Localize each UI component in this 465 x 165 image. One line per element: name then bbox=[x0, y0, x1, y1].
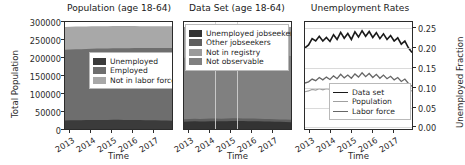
legend-item-labor-force: Labor force bbox=[333, 107, 406, 116]
legend-label: Data set bbox=[352, 88, 384, 97]
xtickmark bbox=[209, 130, 210, 133]
legend-label: Unemployed bbox=[110, 57, 158, 66]
panel-population-plot-area: Unemployed Employed Not in labor force bbox=[64, 21, 173, 130]
gridline bbox=[305, 68, 412, 69]
legend-swatch-icon bbox=[189, 49, 202, 56]
legend-swatch-icon bbox=[189, 30, 202, 37]
figure-canvas: Population (age 18-64) Total Population … bbox=[0, 0, 465, 165]
gridline bbox=[305, 28, 412, 29]
panel-rates-ylabel: Unemployed Fraction bbox=[455, 37, 465, 128]
ytick-005: 0.05 bbox=[418, 104, 436, 114]
ytick-250000: 250000 bbox=[16, 36, 61, 46]
ytickmark bbox=[413, 87, 416, 88]
ytickmark bbox=[413, 126, 416, 127]
legend-line-icon bbox=[333, 92, 348, 93]
panel-population-title: Population (age 18-64) bbox=[60, 3, 178, 13]
xtickmark bbox=[393, 130, 394, 133]
ytick-100000: 100000 bbox=[16, 90, 61, 100]
ytick-000: 0.00 bbox=[418, 123, 436, 133]
legend-label: Population bbox=[352, 97, 392, 106]
legend-item-unemployed-jobseekers: Unemployed jobseekers bbox=[189, 29, 284, 38]
ytickmark bbox=[413, 27, 416, 28]
legend-line-icon bbox=[333, 101, 348, 102]
legend-swatch-icon bbox=[189, 58, 202, 65]
legend-label: Labor force bbox=[352, 107, 395, 116]
ytick-015: 0.15 bbox=[418, 64, 436, 74]
legend-item-other-jobseekers: Other jobseekers bbox=[189, 38, 284, 47]
legend-label: Employed bbox=[110, 66, 148, 75]
ytickmark bbox=[413, 107, 416, 108]
legend-item-not-observable: Not observable bbox=[189, 57, 284, 66]
legend-label: Not observable bbox=[206, 57, 264, 66]
legend-label: Other jobseekers bbox=[206, 38, 271, 47]
xtickmark bbox=[330, 130, 331, 133]
xtickmark bbox=[69, 130, 70, 133]
xtickmark bbox=[188, 130, 189, 133]
xtickmark bbox=[251, 130, 252, 133]
xtickmark bbox=[372, 130, 373, 133]
ytickmark bbox=[413, 47, 416, 48]
xtickmark bbox=[153, 130, 154, 133]
legend-item-unemployed: Unemployed bbox=[93, 57, 173, 66]
panel-rates-title: Unemployment Rates bbox=[299, 3, 421, 13]
legend-swatch-icon bbox=[189, 39, 202, 46]
xtickmark bbox=[272, 130, 273, 133]
ytick-0: 0 bbox=[16, 126, 61, 136]
legend-swatch-icon bbox=[93, 77, 106, 84]
legend-item-not-in-labor-force: Not in labor force bbox=[93, 76, 173, 85]
legend-label: Not in labor force bbox=[110, 76, 173, 85]
panel-dataset-plot-area: Unemployed jobseekers Other jobseekers N… bbox=[183, 21, 292, 130]
legend-swatch-icon bbox=[93, 58, 106, 65]
ytick-50000: 50000 bbox=[16, 108, 61, 118]
xtickmark bbox=[111, 130, 112, 133]
panel-rates-plot-area: Data set Population Labor force bbox=[304, 21, 413, 130]
legend-item-population: Population bbox=[333, 97, 406, 106]
xtickmark bbox=[132, 130, 133, 133]
ytick-010: 0.10 bbox=[418, 84, 436, 94]
panel-rates-legend: Data set Population Labor force bbox=[329, 83, 411, 120]
panel-dataset-xlabel: Time bbox=[183, 151, 292, 161]
panel-dataset-legend: Unemployed jobseekers Other jobseekers N… bbox=[185, 24, 289, 71]
panel-population-legend: Unemployed Employed Not in labor force bbox=[89, 52, 173, 89]
legend-label: Unemployed jobseekers bbox=[206, 29, 292, 38]
ytick-300000: 300000 bbox=[16, 18, 61, 28]
ytick-150000: 150000 bbox=[16, 72, 61, 82]
panel-dataset-title: Data Set (age 18-64) bbox=[178, 3, 296, 13]
xtickmark bbox=[309, 130, 310, 133]
xtickmark bbox=[351, 130, 352, 133]
legend-item-not-in-registry: Not in registry bbox=[189, 48, 284, 57]
ytickmark bbox=[413, 67, 416, 68]
xtickmark bbox=[90, 130, 91, 133]
ytick-020: 0.20 bbox=[418, 44, 436, 54]
xtickmark bbox=[230, 130, 231, 133]
legend-item-data-set: Data set bbox=[333, 88, 406, 97]
ytick-025: 0.25 bbox=[418, 24, 436, 34]
legend-item-employed: Employed bbox=[93, 66, 173, 75]
gridline bbox=[305, 48, 412, 49]
legend-line-icon bbox=[333, 111, 348, 112]
panel-rates-xlabel: Time bbox=[304, 151, 413, 161]
ytick-200000: 200000 bbox=[16, 54, 61, 64]
panel-population-xlabel: Time bbox=[64, 151, 173, 161]
legend-swatch-icon bbox=[93, 67, 106, 74]
legend-label: Not in registry bbox=[206, 48, 260, 57]
gridline bbox=[305, 127, 412, 128]
